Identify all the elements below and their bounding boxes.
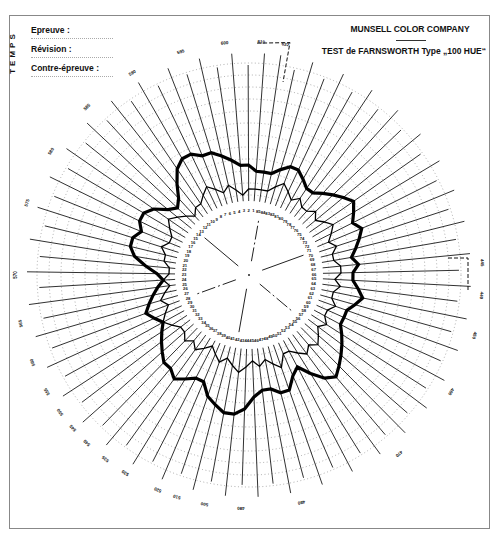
radial-line xyxy=(322,290,467,319)
wavelength-label: 460 xyxy=(447,387,455,396)
wavelength-label: 575 xyxy=(23,198,30,207)
cap-number-label: 61 xyxy=(308,295,313,300)
wavelength-label: 585 xyxy=(82,102,91,111)
wavelength-label: 520 xyxy=(153,486,162,494)
radial-line xyxy=(30,239,176,263)
wavelength-label: 595 xyxy=(176,48,185,55)
cap-number-label: 63 xyxy=(310,286,315,291)
radial-line xyxy=(252,349,258,497)
cap-number-label: 71 xyxy=(307,248,312,253)
radial-line xyxy=(312,161,439,237)
cap-number-label: 68 xyxy=(311,262,316,267)
wavelength-label: 550 xyxy=(56,407,65,416)
cap-number-label: 67 xyxy=(311,267,316,272)
radial-line xyxy=(248,65,249,201)
radial-line xyxy=(294,109,378,216)
radial-line xyxy=(39,279,175,287)
cap-number-label: 59 xyxy=(304,304,309,309)
radial-line xyxy=(138,83,212,211)
radial-line xyxy=(283,340,352,471)
radial-line xyxy=(68,169,185,238)
wavelength-label: 480 xyxy=(297,499,306,506)
wavelength-label: 555 xyxy=(42,387,50,396)
wavelength-label: 530 xyxy=(120,469,129,477)
cap-number-label: 80 xyxy=(279,216,284,221)
wavelength-label: 590 xyxy=(128,68,137,76)
radial-line xyxy=(275,79,324,206)
radial-line xyxy=(323,279,471,287)
wavelength-label: 490 xyxy=(237,506,245,511)
cap-number-label: 79 xyxy=(283,219,288,224)
radial-line xyxy=(305,324,408,413)
cap-number-label: 83 xyxy=(265,211,270,216)
radial-line xyxy=(321,221,465,257)
cap-number-label: 65 xyxy=(312,276,317,281)
wavelength-label: 560 xyxy=(29,358,37,367)
wavelength-label: 600 xyxy=(221,40,229,46)
radial-line xyxy=(82,320,190,402)
cap-number-label: 70 xyxy=(308,253,313,258)
radial-line xyxy=(225,349,241,496)
radial-line xyxy=(323,254,470,268)
wavelength-label: 610 xyxy=(257,39,265,44)
radial-line xyxy=(322,239,456,262)
radial-line xyxy=(107,120,199,220)
cap-number-label: 60 xyxy=(306,300,311,305)
radial-line xyxy=(103,328,198,425)
radial-line xyxy=(288,338,360,453)
wavelength-label: 540 xyxy=(82,438,91,447)
center-dot xyxy=(248,274,250,276)
top-bracket xyxy=(257,43,290,82)
wavelength-label: 545 xyxy=(68,423,77,432)
wavelength-label: 500 xyxy=(200,501,209,507)
cap-number-label: 82 xyxy=(270,212,275,217)
cap-number-label: 66 xyxy=(312,272,317,277)
radial-line xyxy=(323,270,459,273)
radial-line xyxy=(162,343,220,479)
radial-line xyxy=(63,315,187,396)
cap-number-label: 84 xyxy=(261,210,266,215)
wavelength-label: 580 xyxy=(47,146,55,155)
wavelength-label: 470 xyxy=(394,450,403,459)
wavelength-label: 570 xyxy=(13,271,18,279)
radial-line xyxy=(279,343,333,468)
farnsworth-radar-chart: 1234567891011121314151617181920212223242… xyxy=(0,0,499,541)
radial-line xyxy=(257,349,273,484)
wavelength-label: 445 xyxy=(479,259,484,267)
radial-line xyxy=(263,348,291,493)
radial-line xyxy=(319,209,448,252)
radial-line xyxy=(322,284,457,301)
radial-line xyxy=(193,347,230,490)
wavelength-label: 450 xyxy=(471,331,478,340)
radial-line xyxy=(126,335,205,445)
radial-line xyxy=(133,338,210,464)
radial-line xyxy=(314,310,444,380)
cap-number-label: 78 xyxy=(287,222,292,227)
radial-line xyxy=(40,256,175,268)
cap-number-label: 81 xyxy=(274,214,279,219)
wavelength-label: 440 xyxy=(479,291,485,299)
radial-line xyxy=(232,54,244,202)
wavelength-label: 510 xyxy=(172,493,181,500)
radial-line xyxy=(303,130,401,224)
radial-line xyxy=(36,296,178,337)
wavelength-label: 565 xyxy=(17,319,24,328)
cap-number-label: 85 xyxy=(256,209,261,214)
wavelength-label: 535 xyxy=(100,454,109,463)
cap-number-label: 62 xyxy=(309,291,314,296)
cap-number-label: 10 xyxy=(210,219,215,224)
radial-line xyxy=(317,190,454,247)
cap-number-label: 64 xyxy=(311,281,316,286)
cap-number-label: 69 xyxy=(310,257,315,262)
